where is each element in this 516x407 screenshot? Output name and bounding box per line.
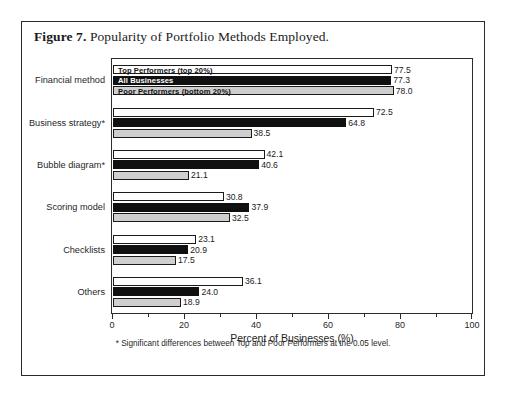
legend-label-poor: Poor Performers (bottom 20%) — [118, 86, 231, 95]
x-axis-tick-label: 60 — [323, 320, 333, 330]
figure-footnote: * Significant differences between Top an… — [22, 339, 484, 348]
bar-all[interactable]: 40.6 — [113, 160, 259, 169]
bar-group: Others36.124.018.9 — [112, 277, 472, 307]
category-label: Financial method — [35, 75, 105, 85]
bar-value-label: 18.9 — [183, 297, 200, 307]
bar-top[interactable]: 72.5 — [113, 108, 374, 117]
bar-row: 38.5 — [113, 129, 473, 138]
x-axis-minor-tick — [364, 313, 365, 317]
x-axis-minor-tick — [292, 313, 293, 317]
x-axis-major-tick — [184, 313, 185, 319]
bar-poor[interactable]: 18.9 — [113, 298, 181, 307]
bar-row: 32.5 — [113, 213, 473, 222]
bar-all[interactable]: All Businesses77.3 — [113, 76, 391, 85]
category-label: Business strategy* — [29, 118, 105, 128]
bar-row: 64.8 — [113, 118, 473, 127]
bar-top[interactable]: Top Performers (top 20%)77.5 — [113, 65, 392, 74]
x-axis-major-tick — [256, 313, 257, 319]
bar-row: 30.8 — [113, 192, 473, 201]
x-axis-minor-tick — [436, 313, 437, 317]
bar-value-label: 21.1 — [191, 170, 208, 180]
bar-group: Checklists23.120.917.5 — [112, 235, 472, 265]
bar-value-label: 77.3 — [393, 75, 410, 85]
bar-poor[interactable]: 32.5 — [113, 213, 230, 222]
bar-row: 21.1 — [113, 171, 473, 180]
bar-top[interactable]: 42.1 — [113, 150, 265, 159]
bar-value-label: 72.5 — [376, 107, 393, 117]
bar-value-label: 42.1 — [267, 149, 284, 159]
bar-row: 42.1 — [113, 150, 473, 159]
bar-row: 18.9 — [113, 298, 473, 307]
bar-value-label: 32.5 — [232, 213, 249, 223]
bar-group: Scoring model30.837.932.5 — [112, 192, 472, 222]
bar-value-label: 17.5 — [178, 255, 195, 265]
x-axis-minor-tick — [148, 313, 149, 317]
x-axis-tick-label: 0 — [109, 320, 114, 330]
bar-value-label: 20.9 — [190, 245, 207, 255]
category-label: Others — [77, 287, 105, 297]
figure-number: Figure 7. — [34, 29, 86, 44]
bar-row: All Businesses77.3 — [113, 76, 473, 85]
figure-caption: Figure 7. Popularity of Portfolio Method… — [34, 29, 329, 45]
bar-row: 24.0 — [113, 287, 473, 296]
bar-group: Financial methodTop Performers (top 20%)… — [112, 65, 472, 95]
bar-row: Top Performers (top 20%)77.5 — [113, 65, 473, 74]
x-axis-major-tick — [400, 313, 401, 319]
x-axis-major-tick — [112, 313, 113, 319]
legend-label-all: All Businesses — [118, 76, 173, 85]
legend-label-top: Top Performers (top 20%) — [118, 65, 213, 74]
bar-value-label: 40.6 — [261, 160, 278, 170]
x-axis-tick-label: 40 — [251, 320, 261, 330]
bar-poor[interactable]: 17.5 — [113, 256, 176, 265]
x-axis-minor-tick — [220, 313, 221, 317]
bar-value-label: 38.5 — [254, 128, 271, 138]
bar-value-label: 37.9 — [251, 202, 268, 212]
x-axis-tick-label: 20 — [179, 320, 189, 330]
bar-poor[interactable]: 38.5 — [113, 129, 252, 138]
bar-all[interactable]: 64.8 — [113, 118, 346, 127]
x-axis-tick-label: 80 — [395, 320, 405, 330]
bar-value-label: 36.1 — [245, 276, 262, 286]
figure-caption-text: Popularity of Portfolio Methods Employed… — [86, 29, 329, 44]
category-label: Scoring model — [46, 202, 105, 212]
bar-row: 36.1 — [113, 277, 473, 286]
x-axis-major-tick — [471, 313, 472, 319]
bar-poor[interactable]: Poor Performers (bottom 20%)78.0 — [113, 86, 394, 95]
bar-row: Poor Performers (bottom 20%)78.0 — [113, 86, 473, 95]
category-label: Checklists — [63, 245, 105, 255]
figure-frame: Figure 7. Popularity of Portfolio Method… — [21, 21, 485, 376]
bar-top[interactable]: 23.1 — [113, 235, 196, 244]
bar-value-label: 23.1 — [198, 234, 215, 244]
bar-row: 72.5 — [113, 108, 473, 117]
bar-value-label: 24.0 — [201, 287, 218, 297]
bar-row: 37.9 — [113, 203, 473, 212]
chart-plot-area: Percent of Businesses (%) Financial meth… — [111, 58, 473, 314]
x-axis-major-tick — [328, 313, 329, 319]
bar-row: 20.9 — [113, 245, 473, 254]
bar-row: 17.5 — [113, 256, 473, 265]
bar-row: 40.6 — [113, 160, 473, 169]
bar-poor[interactable]: 21.1 — [113, 171, 189, 180]
bar-top[interactable]: 30.8 — [113, 192, 224, 201]
x-axis-tick-label: 100 — [464, 320, 479, 330]
bar-value-label: 77.5 — [394, 65, 411, 75]
bar-value-label: 30.8 — [226, 192, 243, 202]
bar-group: Bubble diagram*42.140.621.1 — [112, 150, 472, 180]
bar-all[interactable]: 24.0 — [113, 287, 199, 296]
bar-row: 23.1 — [113, 235, 473, 244]
bar-group: Business strategy*72.564.838.5 — [112, 108, 472, 138]
bar-all[interactable]: 20.9 — [113, 245, 188, 254]
bar-top[interactable]: 36.1 — [113, 277, 243, 286]
category-label: Bubble diagram* — [37, 160, 105, 170]
bar-all[interactable]: 37.9 — [113, 203, 249, 212]
bar-value-label: 78.0 — [396, 86, 413, 96]
bar-value-label: 64.8 — [348, 118, 365, 128]
